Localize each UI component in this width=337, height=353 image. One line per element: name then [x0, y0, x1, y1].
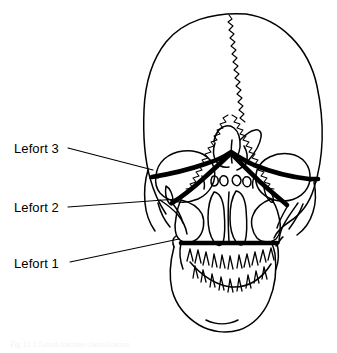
sagittal-suture — [228, 15, 245, 122]
label-lefort-1: Lefort 1 — [14, 256, 59, 271]
fracture-line-lefort2 — [172, 153, 287, 205]
left-maxillary-sinus — [175, 200, 204, 242]
leader-line-lefort1 — [70, 239, 179, 262]
mandible-ramus-left — [173, 236, 176, 247]
figure-container: Lefort 3 Lefort 2 Lefort 1 Fig 11.1 Lefo… — [0, 0, 337, 353]
label-lefort-2: Lefort 2 — [14, 200, 59, 215]
leader-line-lefort3 — [68, 148, 153, 170]
maxilla-lateral-left — [180, 243, 183, 269]
figure-caption: Fig 11.1 Lefort fracture classification — [10, 340, 129, 349]
label-lefort-3: Lefort 3 — [14, 141, 59, 156]
mandible-chin-contour — [206, 320, 238, 324]
lower-teeth — [193, 266, 267, 292]
midface-ossicle-3 — [232, 175, 241, 185]
nasal-septum — [228, 192, 229, 242]
midface-ossicle-2 — [220, 176, 228, 186]
nasal-aperture-left — [208, 192, 225, 246]
upper-teeth — [187, 248, 274, 269]
nasal-aperture-right — [230, 191, 247, 245]
midface-ossicle-4 — [243, 177, 251, 187]
skull-diagram — [0, 0, 337, 353]
